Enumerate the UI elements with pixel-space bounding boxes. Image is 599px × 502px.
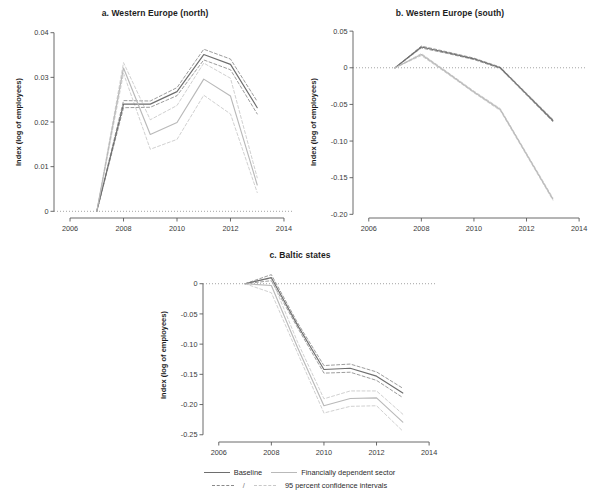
legend-row-solid: Baseline Financially dependent sector: [0, 466, 599, 479]
legend-item-fin-dep: Financially dependent sector: [271, 468, 395, 477]
figure-container: a. Western Europe (north) Index (log of …: [0, 0, 599, 502]
x-tick-label: 2010: [169, 224, 185, 233]
x-tick-label: 2006: [62, 224, 78, 233]
x-tick-label: 2012: [222, 224, 238, 233]
y-tick-label: 0.05: [333, 27, 347, 36]
y-tick-label: 0: [343, 63, 347, 72]
y-tick-label: -0.20: [181, 400, 198, 409]
x-tick-label: 2012: [518, 224, 534, 233]
legend-row-dashed: / 95 percent confidence intervals: [0, 479, 599, 492]
confidence-interval-line: [97, 73, 257, 211]
series-line: [245, 278, 403, 393]
panel-b-plot: 0.050-0.05-0.10-0.15-0.20200620082010201…: [305, 8, 595, 246]
legend-label-ci: 95 percent confidence intervals: [285, 481, 387, 490]
x-tick-label: 2008: [115, 224, 131, 233]
y-tick-label: 0.01: [34, 162, 48, 171]
y-tick-label: 0.04: [34, 28, 48, 37]
y-tick-label: -0.20: [331, 210, 348, 219]
y-tick-label: 0: [44, 207, 48, 216]
confidence-interval-line: [395, 54, 553, 198]
x-tick-label: 2006: [361, 224, 377, 233]
panel-western-europe-north: a. Western Europe (north) Index (log of …: [10, 8, 300, 246]
y-tick-label: 0.03: [34, 73, 48, 82]
y-tick-label: 0.02: [34, 118, 48, 127]
series-line: [245, 284, 403, 422]
panel-western-europe-south: b. Western Europe (south) Index (log of …: [305, 8, 595, 246]
y-tick-label: 0: [193, 279, 197, 288]
baseline-line-swatch-icon: [204, 472, 230, 473]
x-tick-label: 2008: [413, 224, 429, 233]
x-tick-label: 2014: [276, 224, 292, 233]
x-tick-label: 2010: [466, 224, 482, 233]
baseline-ci-dash-swatch-icon: [212, 485, 234, 486]
fin-dep-ci-dash-swatch-icon: [254, 485, 276, 486]
y-tick-label: -0.10: [331, 137, 348, 146]
x-tick-label: 2006: [211, 448, 227, 457]
panel-a-plot: 00.010.020.030.0420062008201020122014: [10, 8, 300, 246]
x-tick-label: 2014: [421, 448, 437, 457]
legend-label-fin-dep: Financially dependent sector: [301, 468, 395, 477]
x-tick-label: 2012: [368, 448, 384, 457]
series-line: [395, 55, 553, 199]
panel-c-plot: 0-0.05-0.10-0.15-0.20-0.2520062008201020…: [155, 250, 445, 472]
x-tick-label: 2008: [263, 448, 279, 457]
legend-label-baseline: Baseline: [234, 468, 262, 477]
y-tick-label: -0.05: [181, 310, 198, 319]
y-tick-label: -0.25: [181, 430, 198, 439]
confidence-interval-line: [245, 275, 403, 389]
x-tick-label: 2010: [316, 448, 332, 457]
x-tick-label: 2014: [571, 224, 587, 233]
chart-legend: Baseline Financially dependent sector / …: [0, 466, 599, 492]
confidence-interval-line: [245, 281, 403, 398]
confidence-interval-line: [395, 56, 553, 201]
y-tick-label: -0.10: [181, 340, 198, 349]
confidence-interval-line: [245, 284, 403, 431]
legend-separator: /: [243, 481, 245, 490]
fin-dep-line-swatch-icon: [271, 472, 297, 473]
confidence-interval-line: [245, 278, 403, 414]
y-tick-label: -0.15: [331, 173, 348, 182]
legend-item-baseline: Baseline: [204, 468, 262, 477]
y-tick-label: -0.15: [181, 370, 198, 379]
y-tick-label: -0.05: [331, 100, 348, 109]
panel-baltic-states: c. Baltic states Index (log of employees…: [155, 250, 445, 472]
